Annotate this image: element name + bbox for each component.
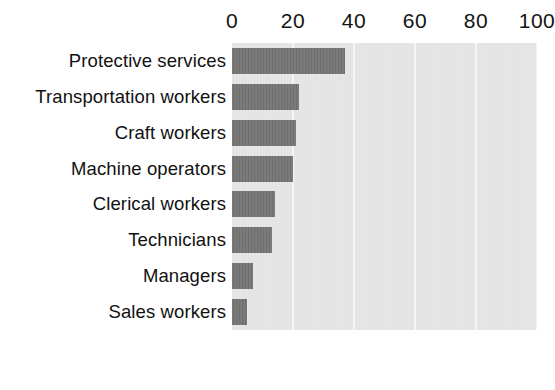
bar	[232, 299, 247, 325]
bar-chart: 020406080100 Protective servicesTranspor…	[0, 0, 555, 390]
y-axis-label: Craft workers	[0, 122, 226, 144]
plot-area	[232, 43, 537, 330]
bar	[232, 191, 275, 217]
x-tick-label: 60	[403, 8, 427, 34]
y-axis-label: Sales workers	[0, 301, 226, 323]
bar	[232, 227, 272, 253]
y-axis-label: Clerical workers	[0, 193, 226, 215]
x-tick-label: 40	[342, 8, 366, 34]
gridline	[353, 43, 355, 330]
y-axis-label: Transportation workers	[0, 86, 226, 108]
x-tick-label: 20	[281, 8, 305, 34]
y-axis-label: Managers	[0, 265, 226, 287]
y-axis-label: Machine operators	[0, 158, 226, 180]
y-axis-label: Technicians	[0, 229, 226, 251]
bar	[232, 84, 299, 110]
y-axis-label: Protective services	[0, 50, 226, 72]
gridline	[536, 43, 537, 330]
bar	[232, 48, 345, 74]
gridline	[475, 43, 477, 330]
y-axis-category-labels: Protective servicesTransportation worker…	[0, 43, 226, 330]
bar	[232, 263, 253, 289]
x-axis-tick-labels: 020406080100	[0, 8, 555, 38]
gridline	[414, 43, 416, 330]
bar	[232, 120, 296, 146]
x-tick-label: 100	[519, 8, 555, 34]
x-tick-label: 0	[226, 8, 238, 34]
bar	[232, 156, 293, 182]
x-tick-label: 80	[464, 8, 488, 34]
